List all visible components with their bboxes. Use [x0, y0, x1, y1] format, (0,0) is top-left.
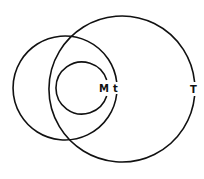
circles-diagram: M t T — [0, 0, 204, 179]
label-T: T — [190, 84, 197, 95]
label-M: M — [99, 83, 109, 94]
label-t: t — [113, 83, 118, 94]
